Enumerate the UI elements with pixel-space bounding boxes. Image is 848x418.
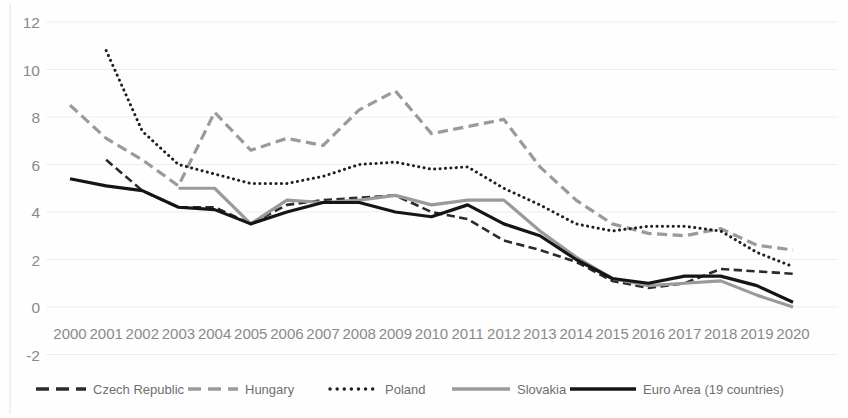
x-axis-tick-label: 2007	[306, 325, 339, 342]
y-axis-tick-label: 0	[31, 299, 40, 316]
x-axis-tick-label: 2016	[632, 325, 665, 342]
x-axis-tick-label: 2006	[270, 325, 303, 342]
legend-label-poland[interactable]: Poland	[385, 382, 425, 397]
y-axis-tick-label: 12	[23, 14, 40, 31]
x-axis-tick-label: 2020	[776, 325, 809, 342]
series-line-czech-republic	[106, 160, 793, 288]
legend-label-slovakia[interactable]: Slovakia	[517, 382, 567, 397]
legend-label-euro-area-19-countries[interactable]: Euro Area (19 countries)	[643, 382, 784, 397]
chart-canvas: 121086420-2 2000200120022003200420052006…	[0, 0, 848, 418]
x-axis-tick-label: 2004	[198, 325, 231, 342]
y-axis-tick-label: 2	[31, 252, 40, 269]
x-axis-tick-label: 2001	[89, 325, 122, 342]
x-axis-tick-label: 2000	[53, 325, 86, 342]
x-axis-tick-label: 2008	[343, 325, 376, 342]
y-axis-tick-label: -2	[26, 347, 40, 364]
gridlines	[46, 22, 838, 355]
x-axis-tick-label: 2019	[740, 325, 773, 342]
y-axis-tick-label: 10	[23, 62, 41, 79]
y-axis-tick-labels: 121086420-2	[23, 14, 41, 364]
legend-label-hungary[interactable]: Hungary	[245, 382, 295, 397]
chart-legend: Czech RepublicHungaryPolandSlovakiaEuro …	[36, 382, 784, 397]
x-axis-tick-label: 2011	[452, 325, 484, 342]
y-axis-tick-label: 4	[31, 204, 40, 221]
x-axis-tick-label: 2002	[126, 325, 159, 342]
x-axis-tick-label: 2014	[559, 325, 592, 342]
x-axis-tick-label: 2015	[596, 325, 629, 342]
legend-label-czech-republic[interactable]: Czech Republic	[93, 382, 185, 397]
y-axis-tick-label: 6	[31, 157, 40, 174]
line-chart: 121086420-2 2000200120022003200420052006…	[0, 0, 848, 418]
x-axis-tick-label: 2010	[415, 325, 448, 342]
x-axis-tick-label: 2005	[234, 325, 267, 342]
x-axis-tick-labels: 2000200120022003200420052006200720082009…	[53, 325, 809, 342]
y-axis-tick-label: 8	[31, 109, 40, 126]
x-axis-tick-label: 2012	[487, 325, 520, 342]
x-axis-tick-label: 2003	[162, 325, 195, 342]
series-line-slovakia	[178, 188, 793, 307]
x-axis-tick-label: 2013	[523, 325, 556, 342]
x-axis-tick-label: 2009	[379, 325, 412, 342]
data-series-group	[70, 51, 793, 308]
x-axis-tick-label: 2018	[704, 325, 737, 342]
x-axis-tick-label: 2017	[668, 325, 701, 342]
